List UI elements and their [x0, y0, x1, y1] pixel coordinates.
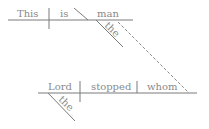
- word-modifier-lord: the: [57, 94, 76, 113]
- sentence-diagram: This is man the Lord stopped whom the: [0, 0, 209, 129]
- word-verb: is: [60, 8, 68, 19]
- word-relative-subject: Lord: [48, 81, 72, 92]
- word-relative-object: whom: [147, 81, 178, 92]
- word-relative-verb: stopped: [91, 81, 132, 92]
- predicate-slant: [74, 8, 88, 20]
- word-predicate: man: [97, 8, 119, 19]
- word-subject: This: [17, 8, 38, 19]
